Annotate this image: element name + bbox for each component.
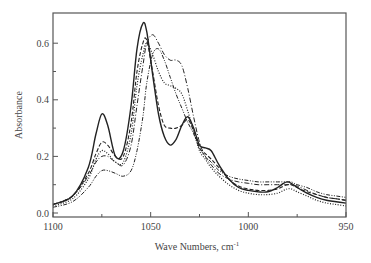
y-tick-label: 0.0 bbox=[37, 208, 50, 219]
y-axis-title: Absorbance bbox=[13, 91, 24, 139]
x-tick-label: 1000 bbox=[238, 221, 258, 232]
x-tick-label: 950 bbox=[339, 221, 354, 232]
x-axis-title-text: Wave Numbers, cm bbox=[155, 241, 234, 252]
series-layer bbox=[53, 22, 346, 207]
y-tick-label: 0.2 bbox=[37, 151, 50, 162]
y-tick-label: 0.4 bbox=[37, 94, 50, 105]
absorbance-spectrum-chart: 1100105010009500.00.20.40.6 Absorbance W… bbox=[0, 0, 371, 263]
series-dotted bbox=[53, 43, 346, 206]
series-dashed bbox=[53, 38, 346, 205]
series-dash-dot bbox=[53, 35, 346, 205]
x-axis-title: Wave Numbers, cm-1 bbox=[155, 240, 240, 252]
x-axis-title-superscript: -1 bbox=[234, 240, 240, 248]
x-tick-label: 1050 bbox=[141, 221, 161, 232]
x-tick-label: 1100 bbox=[43, 221, 63, 232]
series-solid bbox=[53, 22, 346, 204]
y-tick-label: 0.6 bbox=[37, 38, 50, 49]
